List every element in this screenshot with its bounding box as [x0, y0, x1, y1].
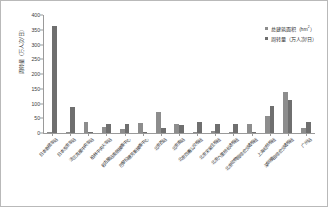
x-tick-mark — [125, 133, 126, 136]
bar-group[interactable] — [224, 15, 242, 133]
legend-item-area: 总建筑面积（hm2） — [265, 25, 317, 32]
legend-label-area: 总建筑面积（hm2） — [271, 25, 315, 32]
bar-group[interactable] — [97, 15, 115, 133]
bar-group[interactable] — [61, 15, 79, 133]
bar-group[interactable] — [170, 15, 188, 133]
bar-turnover[interactable] — [197, 122, 202, 133]
bar-group[interactable] — [79, 15, 97, 133]
bar-group[interactable] — [188, 15, 206, 133]
x-tick-mark — [270, 133, 271, 136]
bar-turnover[interactable] — [215, 124, 220, 133]
x-tick-mark — [88, 133, 89, 136]
bar-turnover[interactable] — [70, 107, 75, 133]
bar-turnover[interactable] — [233, 124, 238, 133]
bar-turnover[interactable] — [106, 124, 111, 133]
x-tick-label: 北京西站 — [153, 137, 168, 152]
y-axis-title: 周转量（万人次/日） — [17, 0, 24, 106]
x-tick-label: 北京动物园综合交通枢纽 — [223, 137, 258, 172]
x-tick-label: 广州站 — [300, 137, 312, 149]
bar-group[interactable] — [43, 15, 61, 133]
legend-swatch-area-icon — [265, 27, 268, 30]
bar-turnover[interactable] — [288, 100, 293, 133]
x-tick-mark — [106, 133, 107, 136]
x-tick-mark — [197, 133, 198, 136]
legend-swatch-turnover-icon — [265, 37, 268, 40]
x-tick-mark — [233, 133, 234, 136]
bar-turnover[interactable] — [306, 122, 311, 133]
legend-item-turnover: 周转量（万人次/日） — [265, 35, 317, 42]
x-tick-mark — [215, 133, 216, 136]
x-tick-mark — [143, 133, 144, 136]
x-tick-mark — [52, 133, 53, 136]
chart-container: 周转量（万人次/日） 400350300250200150100500 日本新宿… — [0, 0, 328, 207]
x-tick-mark — [306, 133, 307, 136]
x-tick-mark — [70, 133, 71, 136]
x-tick-mark — [252, 133, 253, 136]
x-tick-mark — [288, 133, 289, 136]
x-axis-labels: 日本新宿车站日本东京车站法兰克福中央车站柏林中央火车站名古屋站南侧换乘中心巴黎拉… — [43, 137, 315, 205]
x-tick-label: 北京南站 — [171, 137, 186, 152]
chart-legend: 总建筑面积（hm2） 周转量（万人次/日） — [265, 25, 317, 45]
bar-turnover[interactable] — [125, 124, 130, 133]
bar-group[interactable] — [243, 15, 261, 133]
bar-group[interactable] — [116, 15, 134, 133]
bar-turnover[interactable] — [270, 106, 275, 133]
bar-group[interactable] — [134, 15, 152, 133]
x-tick-mark — [161, 133, 162, 136]
bar-turnover[interactable] — [179, 125, 184, 133]
x-tick-mark — [179, 133, 180, 136]
bar-turnover[interactable] — [52, 26, 57, 133]
legend-label-turnover: 周转量（万人次/日） — [271, 35, 317, 42]
bar-group[interactable] — [206, 15, 224, 133]
bar-group[interactable] — [152, 15, 170, 133]
